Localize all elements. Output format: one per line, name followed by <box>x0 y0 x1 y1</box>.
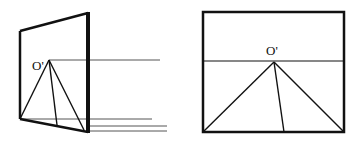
frame-rect <box>203 12 344 132</box>
frame-bottom-edge <box>20 119 88 132</box>
ray-left <box>203 62 274 132</box>
diagram-canvas: O' O' <box>0 0 362 144</box>
front-figure: O' <box>203 12 344 132</box>
ray-right <box>274 62 344 132</box>
ray-middle <box>49 60 57 125</box>
perspective-figure: O' <box>20 12 167 133</box>
apex-label: O' <box>266 43 278 58</box>
apex-label: O' <box>32 58 44 73</box>
frame-top-edge <box>20 13 88 31</box>
ray-middle <box>274 62 284 132</box>
